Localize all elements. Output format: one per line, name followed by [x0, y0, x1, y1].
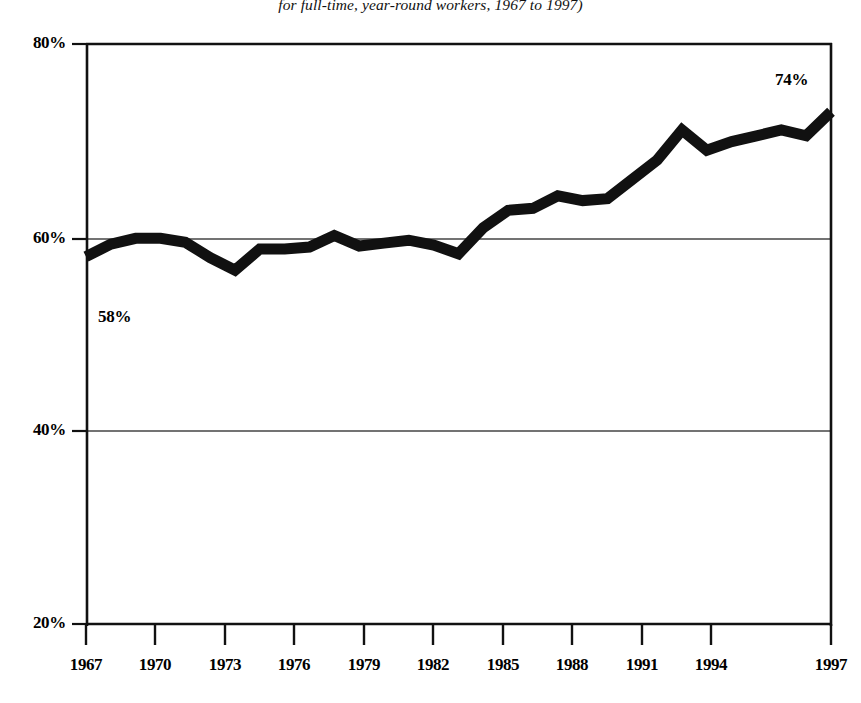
x-tick-label-1994: 1994 [681, 655, 741, 675]
y-tick-label-20: 20% [8, 613, 66, 633]
y-tick-label-40: 40% [8, 420, 66, 440]
axis-frame [87, 43, 831, 626]
y-tick-marks [72, 44, 86, 624]
x-tick-label-1970: 1970 [125, 655, 185, 675]
x-tick-label-1997: 1997 [801, 655, 861, 675]
x-tick-label-1976: 1976 [264, 655, 324, 675]
x-tick-label-1988: 1988 [542, 655, 602, 675]
chart-svg [0, 0, 861, 703]
y-tick-label-60: 60% [8, 228, 66, 248]
x-tick-marks [86, 624, 831, 645]
data-label-start: 58% [98, 307, 131, 327]
chart-container: 80% 60% 40% 20% 1967 1970 1973 1976 1979… [0, 0, 861, 703]
x-tick-label-1979: 1979 [334, 655, 394, 675]
y-tick-label-80: 80% [8, 33, 66, 53]
data-label-end: 74% [775, 70, 808, 90]
x-tick-label-1973: 1973 [195, 655, 255, 675]
data-series-line [86, 112, 831, 271]
x-tick-label-1985: 1985 [473, 655, 533, 675]
gridlines [86, 44, 832, 624]
x-tick-label-1967: 1967 [56, 655, 116, 675]
x-tick-label-1982: 1982 [403, 655, 463, 675]
x-tick-label-1991: 1991 [612, 655, 672, 675]
